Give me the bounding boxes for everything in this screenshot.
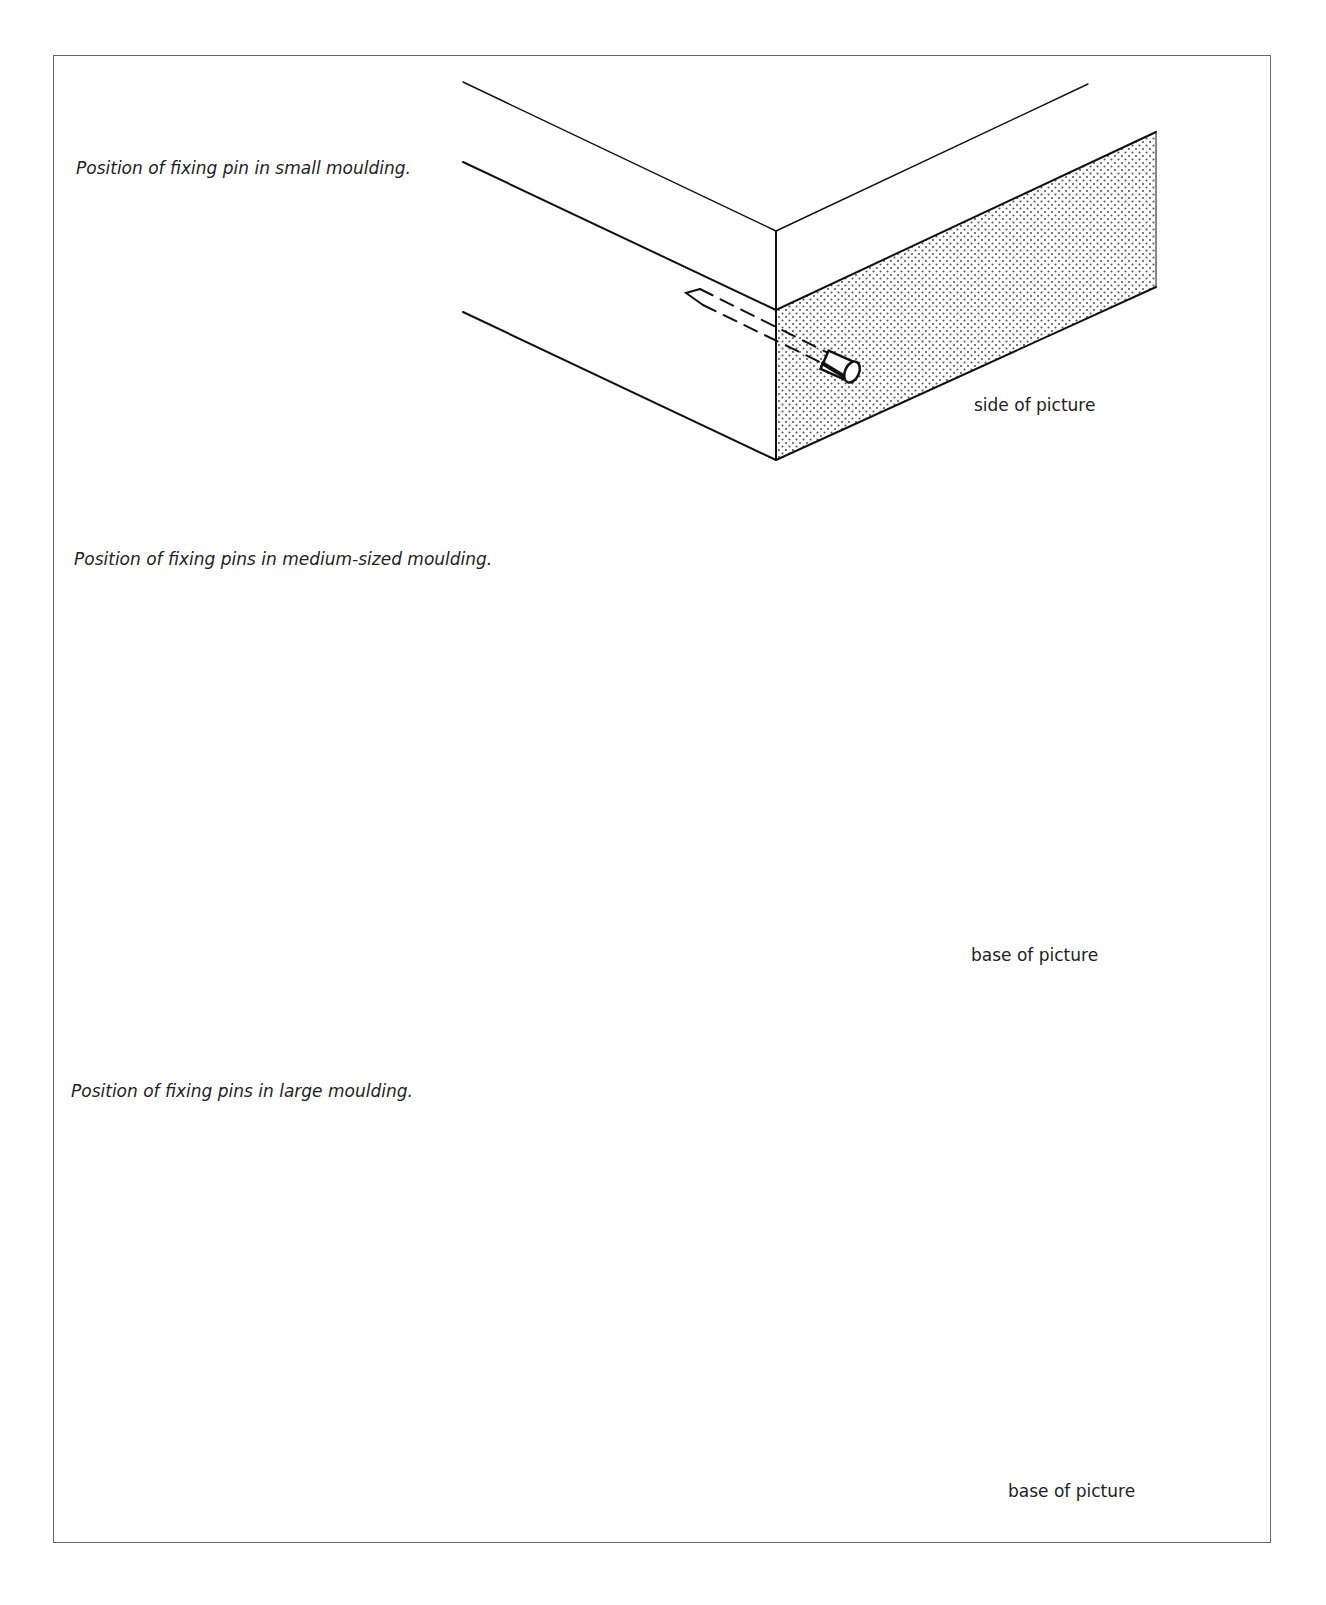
- label-base-of-picture: base of picture: [971, 945, 1098, 965]
- label-base-of-picture: base of picture: [1008, 1481, 1135, 1501]
- stippled-side-face: [776, 132, 1156, 460]
- caption-large-moulding: Position of fixing pins in large mouldin…: [71, 1081, 413, 1101]
- caption-small-moulding: Position of fixing pin in small moulding…: [76, 158, 411, 178]
- moulding-diagrams: [0, 0, 1326, 1605]
- caption-medium-moulding: Position of fixing pins in medium-sized …: [74, 549, 492, 569]
- label-side-of-picture: side of picture: [974, 395, 1095, 415]
